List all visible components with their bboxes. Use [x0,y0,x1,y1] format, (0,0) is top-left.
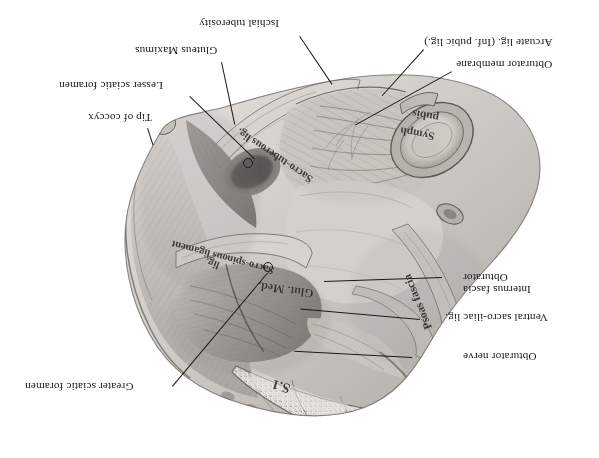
figure-text-sacro-spinous-ligament: Sacro-spinous ligament [170,230,320,280]
marker-greater-sciatic-foramen [263,262,273,272]
psoas-fascia-text: Psoas fascia [401,273,434,332]
label-ischial-tuberosity: Ischial tuberosity [199,18,279,30]
label-gluteus-maximus: Gluteus Maximus [135,45,217,57]
figure-text-sacro-tuberous-lig: Sacro-tuberous lig. [228,80,338,170]
label-obturator-internus-fascia-line1: Obturator [463,272,508,284]
marker-lesser-sciatic-foramen [243,158,253,168]
label-greater-sciatic-foramen: Greater sciatic foramen [25,381,133,393]
label-obturator-membrane: Obturator membrane [456,59,552,71]
sacro-spinous-ligament-text: Sacro-spinous ligament [170,239,275,277]
label-obturator-nerve: Obturator nerve [463,351,536,363]
label-obturator-internus-fascia-line2: Internus fascia [463,284,531,296]
anatomical-plate: Sacro-tuberous lig. Sacro-spinous ligame… [0,0,599,458]
label-tip-of-coccyx: Tip of coccyx [88,112,152,124]
label-ventral-sacro-iliac-lig: Ventral sacro-iliac lig. [445,312,548,324]
label-lesser-sciatic-foramen: Lesser sciatic foramen [59,80,163,92]
label-arcuate-lig: Arcuate lig. (Inf. pubic lig.) [424,37,552,49]
